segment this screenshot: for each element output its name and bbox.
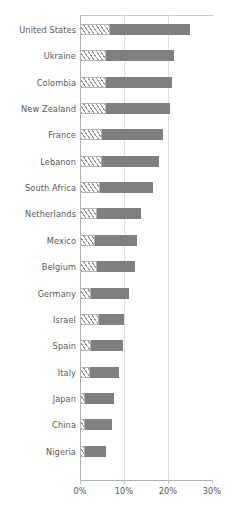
bar-segment-solid (106, 77, 172, 88)
category-label: Colombia (0, 78, 76, 88)
category-label: Spain (0, 341, 76, 351)
bar (80, 235, 137, 246)
bar (80, 182, 153, 193)
bar-segment-hatched (80, 314, 99, 325)
bar (80, 103, 170, 114)
category-label: Nigeria (0, 447, 76, 457)
bar-segment-solid (95, 235, 136, 246)
category-label: Germany (0, 289, 76, 299)
category-label: France (0, 130, 76, 140)
bar-segment-solid (91, 288, 129, 299)
bar-segment-hatched (80, 129, 102, 140)
category-label: Lebanon (0, 157, 76, 167)
bar (80, 419, 112, 430)
plot-top-rule (80, 15, 213, 16)
bar-segment-hatched (80, 288, 91, 299)
bar (80, 261, 135, 272)
bar-segment-hatched (80, 235, 95, 246)
bar-segment-hatched (80, 156, 102, 167)
bar (80, 129, 163, 140)
bar-segment-hatched (80, 50, 106, 61)
category-label: South Africa (0, 183, 76, 193)
bar-segment-solid (97, 261, 135, 272)
x-axis-line (80, 480, 213, 481)
category-label: Netherlands (0, 209, 76, 219)
bar-segment-solid (100, 182, 153, 193)
bar-segment-solid (106, 50, 174, 61)
bar-segment-solid (90, 367, 119, 378)
bar-segment-solid (85, 446, 105, 457)
bar (80, 77, 172, 88)
bar-segment-solid (97, 208, 141, 219)
bar-segment-hatched (80, 208, 97, 219)
bar-segment-hatched (80, 340, 91, 351)
bar (80, 393, 114, 404)
bar (80, 446, 106, 457)
bar-segment-hatched (80, 103, 106, 114)
category-label: United States (0, 25, 76, 35)
bar (80, 288, 129, 299)
bar-segment-solid (106, 103, 170, 114)
bar (80, 208, 141, 219)
x-tick-10% (124, 480, 125, 484)
category-label: China (0, 420, 76, 430)
bar-segment-solid (102, 156, 159, 167)
category-label: Mexico (0, 236, 76, 246)
bar-segment-hatched (80, 367, 90, 378)
bar (80, 24, 190, 35)
bar-segment-solid (102, 129, 163, 140)
x-axis-label: 20% (148, 486, 188, 496)
bar-chart: United StatesUkraineColombiaNew ZealandF… (0, 0, 236, 512)
bar (80, 367, 119, 378)
bar (80, 50, 174, 61)
x-tick-0% (80, 480, 81, 484)
category-label: New Zealand (0, 104, 76, 114)
bar-segment-solid (91, 340, 123, 351)
category-label: Israel (0, 315, 76, 325)
x-axis-label: 10% (104, 486, 144, 496)
bar-segment-hatched (80, 24, 110, 35)
bar-segment-hatched (80, 77, 106, 88)
bar-segment-solid (85, 393, 114, 404)
bar-segment-solid (110, 24, 190, 35)
bar (80, 340, 123, 351)
bar-segment-solid (85, 419, 111, 430)
category-label: Ukraine (0, 51, 76, 61)
x-axis-label: 30% (192, 486, 232, 496)
bar (80, 156, 159, 167)
category-label: Italy (0, 368, 76, 378)
x-tick-20% (168, 480, 169, 484)
bar-segment-hatched (80, 261, 97, 272)
bar-segment-hatched (80, 182, 100, 193)
category-label: Belgium (0, 262, 76, 272)
category-label: Japan (0, 394, 76, 404)
bar-segment-solid (99, 314, 124, 325)
x-tick-30% (212, 480, 213, 484)
bar (80, 314, 124, 325)
x-axis-label: 0% (60, 486, 100, 496)
